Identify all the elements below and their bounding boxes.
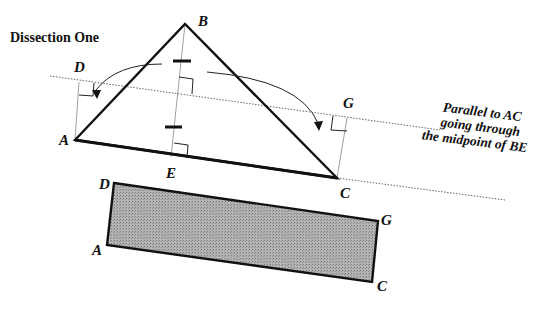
ac-extension-dotted <box>337 178 505 200</box>
right-angle-mid <box>179 77 193 94</box>
rect-label-a: A <box>91 242 102 258</box>
label-d: D <box>73 59 85 75</box>
ad-guide-line <box>75 82 79 140</box>
right-angle-g <box>331 116 347 131</box>
label-a: A <box>58 132 69 148</box>
label-b: B <box>197 13 208 29</box>
dissection-diagram: Dissection One B D A E G C Parallel to A… <box>0 0 535 311</box>
rotation-arc-left <box>96 64 162 90</box>
label-e: E <box>165 165 176 181</box>
triangle-abc <box>75 24 337 178</box>
diagram-title: Dissection One <box>10 30 99 45</box>
label-c: C <box>340 185 351 201</box>
base-ac <box>75 140 337 178</box>
annotation-note: Parallel to AC going through the midpoin… <box>421 97 532 155</box>
label-g: G <box>343 95 354 111</box>
rect-label-d: D <box>98 176 110 192</box>
rect-label-g: G <box>381 212 392 228</box>
rectangle-dgca <box>107 183 378 282</box>
altitude-be <box>171 24 185 157</box>
rect-label-c: C <box>377 278 388 294</box>
right-angle-d <box>79 83 94 96</box>
rotation-arc-right <box>207 72 318 123</box>
gc-guide-line <box>337 118 347 178</box>
arrowhead-right-icon <box>314 121 323 131</box>
